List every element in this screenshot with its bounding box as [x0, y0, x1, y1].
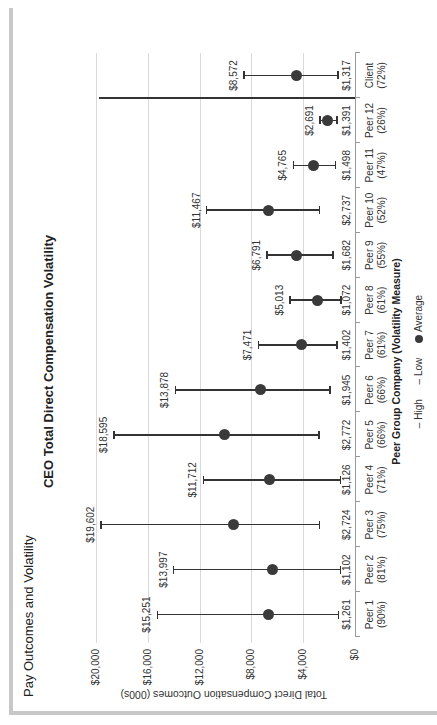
category-label: Peer 1(90%) — [364, 593, 388, 637]
category-tick — [355, 591, 360, 592]
category-label: Peer 3(75%) — [364, 503, 388, 547]
category-measure: (61%) — [376, 323, 388, 367]
category-label: Peer 8(61%) — [364, 278, 388, 322]
category-tick — [355, 546, 360, 547]
category-label: Client(72%) — [364, 53, 388, 97]
category-tick — [355, 97, 360, 98]
category-tick — [355, 456, 360, 457]
category-name: Peer 9 — [364, 233, 376, 277]
error-bar — [101, 524, 320, 526]
low-cap — [337, 71, 339, 79]
average-dot-icon — [415, 335, 423, 343]
high-label: $7,471 — [242, 320, 253, 370]
category-label: Peer 10(52%) — [364, 188, 388, 232]
category-name: Peer 2 — [364, 548, 376, 592]
high-cap — [243, 71, 245, 79]
category-name: Peer 7 — [364, 323, 376, 367]
high-label: $11,712 — [187, 455, 198, 505]
average-dot — [322, 115, 333, 126]
average-dot — [296, 340, 307, 351]
legend-high: – High — [413, 399, 424, 428]
x-axis-title: Peer Group Company (Volatility Measure) — [390, 8, 402, 715]
category-name: Peer 6 — [364, 368, 376, 412]
high-label: $6,791 — [251, 230, 262, 280]
category-label: Peer 4(71%) — [364, 458, 388, 502]
category-name: Client — [364, 53, 376, 97]
category-tick — [355, 501, 360, 502]
category-name: Peer 4 — [364, 458, 376, 502]
category-name: Peer 11 — [364, 143, 376, 187]
y-tick-label: $4,000 — [297, 649, 308, 699]
gridline — [96, 53, 97, 643]
low-cap — [329, 386, 331, 394]
category-name: Peer 3 — [364, 503, 376, 547]
high-cap — [266, 251, 268, 259]
category-measure: (61%) — [376, 278, 388, 322]
high-cap — [175, 386, 177, 394]
low-cap — [336, 116, 338, 124]
category-measure: (90%) — [376, 593, 388, 637]
high-label: $13,878 — [159, 365, 170, 415]
frame-border — [9, 711, 437, 715]
error-bar — [175, 389, 330, 391]
low-cap — [319, 521, 321, 529]
category-name: Peer 12 — [364, 98, 376, 142]
category-tick — [355, 142, 360, 143]
high-label: $18,595 — [98, 410, 109, 460]
category-measure: (26%) — [376, 98, 388, 142]
category-axis — [355, 53, 356, 637]
client-divider — [99, 97, 355, 99]
high-cap — [258, 341, 260, 349]
high-label: $13,997 — [158, 545, 169, 595]
low-label: $1,102 — [341, 545, 352, 595]
category-measure: (81%) — [376, 548, 388, 592]
category-label: Peer 11(47%) — [364, 143, 388, 187]
average-dot — [291, 70, 302, 81]
page-title: Pay Outcomes and Volatility — [21, 535, 36, 697]
high-label: $19,602 — [85, 500, 96, 550]
category-measure: (72%) — [376, 53, 388, 97]
category-measure: (75%) — [376, 503, 388, 547]
low-cap — [335, 161, 337, 169]
high-label: $11,467 — [191, 185, 202, 235]
low-label: $2,724 — [341, 500, 352, 550]
legend: – High – Low Average — [413, 8, 424, 715]
category-tick — [355, 52, 360, 53]
category-measure: (52%) — [376, 188, 388, 232]
low-label: $1,126 — [341, 455, 352, 505]
category-tick — [355, 277, 360, 278]
category-measure: (55%) — [376, 233, 388, 277]
frame-border — [9, 8, 13, 715]
low-label: $1,072 — [341, 275, 352, 325]
low-cap — [318, 431, 320, 439]
low-label: $1,402 — [341, 320, 352, 370]
category-tick — [355, 636, 360, 637]
high-cap — [293, 161, 295, 169]
category-tick — [355, 411, 360, 412]
low-label: $1,391 — [341, 95, 352, 145]
low-cap — [319, 206, 321, 214]
y-tick-label: $12,000 — [194, 649, 205, 699]
category-label: Peer 6(66%) — [364, 368, 388, 412]
y-tick-label: $16,000 — [142, 649, 153, 699]
average-dot — [264, 474, 275, 485]
error-bar — [114, 434, 319, 436]
category-measure: (66%) — [376, 413, 388, 457]
high-cap — [100, 521, 102, 529]
category-tick — [355, 366, 360, 367]
category-label: Peer 12(26%) — [364, 98, 388, 142]
high-label: $5,013 — [274, 275, 285, 325]
high-cap — [157, 611, 159, 619]
low-label: $1,498 — [341, 140, 352, 190]
category-label: Peer 7(61%) — [364, 323, 388, 367]
high-cap — [203, 476, 205, 484]
y-tick-label: $20,000 — [90, 649, 101, 699]
high-label: $8,572 — [228, 50, 239, 100]
low-cap — [332, 251, 334, 259]
low-label: $1,682 — [341, 230, 352, 280]
category-tick — [355, 322, 360, 323]
y-tick-label: $8,000 — [245, 649, 256, 699]
average-dot — [255, 384, 266, 395]
category-measure: (66%) — [376, 368, 388, 412]
category-measure: (71%) — [376, 458, 388, 502]
